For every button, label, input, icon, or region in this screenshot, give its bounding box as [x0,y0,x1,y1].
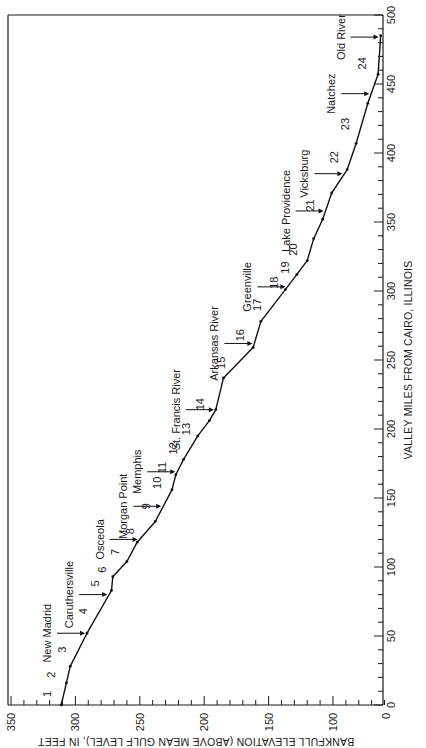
profile-vertex [69,665,72,668]
profile-vertex [377,73,380,76]
profile-vertex [154,520,157,523]
reach-number: 14 [194,398,206,410]
profile-vertex [110,589,113,592]
place-label: Natchez [325,73,337,113]
profile-vertex [296,273,299,276]
miles-tick-label: 450 [385,75,397,93]
profile-vertex [306,259,309,262]
reach-number: 1 [41,691,53,697]
reach-number: 16 [234,329,246,341]
profile-vertex [214,408,217,411]
miles-tick-label: 250 [385,351,397,369]
profile-vertex [259,320,262,323]
miles-tick-label: 150 [385,489,397,507]
place-annotations: New MadridCaruthersvilleOsceolaMorgan Po… [41,14,379,663]
place-label: Caruthersville [63,561,75,628]
elevation-tick-label: 300 [69,713,81,731]
elevation-profile-chart: 0501001502002503003504004505003503002502… [0,0,426,748]
profile-vertex [174,473,177,476]
reach-number: 10 [151,477,163,489]
arrow-head-icon [319,208,324,213]
place-label: Greenville [241,262,253,312]
x-axis-title: VALLEY MILES FROM CAIRO, ILLINOIS [402,261,414,460]
miles-tick-label: 100 [385,558,397,576]
profile-vertex [196,435,199,438]
profile-vertex [182,458,185,461]
miles-tick-label: 350 [385,213,397,231]
profile-vertex [379,34,382,37]
profile-vertex [65,682,68,685]
profile-vertex [355,142,358,145]
arrow-head-icon [170,469,175,474]
profile-line [60,34,382,706]
reach-number: 24 [356,57,368,69]
profile-vertex [126,560,129,563]
arrow-head-icon [337,171,342,176]
profile-vertex [111,575,114,578]
arrow-head-icon [209,407,214,412]
profile-vertex [222,377,225,380]
reach-number: 21 [304,199,316,211]
reach-number: 3 [56,647,68,653]
elevation-profile [61,36,381,705]
miles-tick-label: 500 [385,6,397,24]
profile-vertex [366,102,369,105]
elevation-tick-label: 250 [134,713,146,731]
reach-number: 6 [96,567,108,573]
reach-number: 22 [328,151,340,163]
reach-number: 23 [339,118,351,130]
reach-labels: 123456789101112131415161718192021222324 [41,57,368,697]
arrow-head-icon [102,592,107,597]
miles-tick-label: 50 [385,630,397,642]
arrow-head-icon [247,341,252,346]
miles-tick-label: 300 [385,282,397,300]
profile-vertex [346,168,349,171]
elevation-tick-label: 350 [5,713,17,731]
arrow-head-icon [156,504,161,509]
profile-vertex [312,237,315,240]
place-label: Osceola [94,518,106,559]
profile-vertex [208,419,211,422]
arrow-head-icon [364,91,369,96]
place-label: Vicksburg [298,150,310,198]
reach-number: 2 [45,672,57,678]
miles-tick-label: 400 [385,144,397,162]
reach-number: 13 [180,423,192,435]
y-axis-title: BANKFULL ELEVATION (ABOVE MEAN GULF LEVE… [37,736,354,748]
reach-number: 4 [77,608,89,614]
place-label: Arkansas River [208,306,220,381]
elevation-tick-label: 150 [263,713,275,731]
profile-vertex [284,288,287,291]
place-label: St. Francis River [170,369,182,451]
profile-vertex [86,632,89,635]
reach-number: 5 [89,580,101,586]
place-label: Old River [335,14,347,60]
place-label: Memphis [131,449,143,494]
place-label: New Madrid [41,604,53,663]
elevation-tick-label: 200 [198,713,210,731]
profile-vertex [321,218,324,221]
miles-tick-label: 0 [385,702,397,708]
profile-vertex [136,541,139,544]
arrow-head-icon [80,631,85,636]
place-label: Lake Providence [280,170,292,252]
profile-vertex [60,704,63,707]
profile-vertex [171,488,174,491]
place-label: Morgan Point [117,474,129,539]
reach-number: 7 [109,549,121,555]
reach-number: 19 [279,261,291,273]
miles-tick-label: 200 [385,420,397,438]
profile-vertex [252,346,255,349]
elevation-tick-label: 100 [327,713,339,731]
elevation-corner-label: 0 [380,713,392,719]
arrow-head-icon [374,35,379,40]
profile-vertex [330,192,333,195]
